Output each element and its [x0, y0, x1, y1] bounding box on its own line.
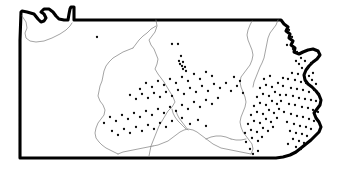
occurrence-dot [181, 65, 183, 67]
occurrence-dot [217, 97, 219, 99]
occurrence-dot [171, 120, 173, 122]
occurrence-dot [236, 85, 238, 87]
occurrence-dot [103, 122, 105, 124]
occurrence-dot [233, 76, 235, 78]
occurrence-dot [287, 78, 289, 80]
occurrence-dot [244, 132, 246, 134]
occurrence-dot [133, 112, 135, 114]
occurrence-dot [182, 61, 184, 63]
occurrence-dot [279, 94, 281, 96]
occurrence-dot [312, 109, 314, 111]
occurrence-dot [127, 118, 129, 120]
occurrence-dot [257, 150, 259, 152]
occurrence-dot [303, 142, 305, 144]
occurrence-dot [197, 119, 199, 121]
occurrence-dot [301, 106, 303, 108]
occurrence-dot [121, 114, 123, 116]
occurrence-dot [169, 106, 171, 108]
occurrence-dot [302, 89, 304, 91]
occurrence-dot [135, 126, 137, 128]
occurrence-dot [205, 99, 207, 101]
occurrence-dot [145, 82, 147, 84]
map-canvas [0, 0, 339, 175]
occurrence-dot [308, 118, 310, 120]
occurrence-dot [182, 68, 184, 70]
occurrence-dot [304, 98, 306, 100]
occurrence-dot [308, 75, 310, 77]
occurrence-dot [165, 126, 167, 128]
occurrence-dot [301, 133, 303, 135]
occurrence-dot [310, 128, 312, 130]
occurrence-dot [259, 122, 261, 124]
occurrence-dot [313, 120, 315, 122]
occurrence-dot [290, 87, 292, 89]
occurrence-dot [205, 125, 207, 127]
occurrence-dot [239, 80, 241, 82]
occurrence-dot [305, 126, 307, 128]
occurrence-dot [252, 153, 254, 155]
occurrence-dot [111, 130, 113, 132]
occurrence-dot [249, 148, 251, 150]
occurrence-dot [315, 83, 317, 85]
occurrence-dot [147, 97, 149, 99]
occurrence-dot [305, 82, 307, 84]
occurrence-dot [302, 116, 304, 118]
occurrence-dot [272, 126, 274, 128]
occurrence-dot [288, 103, 290, 105]
occurrence-dot [181, 117, 183, 119]
occurrence-dot [187, 108, 189, 110]
occurrence-dot [96, 36, 98, 38]
occurrence-dot [179, 63, 181, 65]
occurrence-dot [301, 67, 303, 69]
occurrence-dot [253, 105, 255, 107]
occurrence-dot [295, 146, 297, 148]
occurrence-dot [318, 93, 320, 95]
occurrence-dot [109, 116, 111, 118]
state-outline-layer [20, 7, 321, 158]
occurrence-dot [296, 88, 298, 90]
occurrence-dot [177, 89, 179, 91]
occurrence-dot [268, 109, 270, 111]
occurrence-dot [293, 123, 295, 125]
occurrence-dot [274, 91, 276, 93]
occurrence-dot [291, 72, 293, 74]
occurrence-dot [292, 48, 294, 50]
occurrence-dot [123, 128, 125, 130]
occurrence-dot [290, 113, 292, 115]
occurrence-dot [117, 134, 119, 136]
occurrence-dot [211, 75, 213, 77]
occurrence-dot [265, 118, 267, 120]
occurrence-dot [292, 95, 294, 97]
occurrence-dot [295, 132, 297, 134]
occurrence-dot [178, 60, 180, 62]
occurrence-dot [300, 81, 302, 83]
occurrence-dot [312, 72, 314, 74]
occurrence-dot [230, 90, 232, 92]
occurrence-dot [180, 55, 182, 57]
occurrence-dot [184, 66, 186, 68]
occurrence-dot [256, 96, 258, 98]
occurrence-dot [250, 114, 252, 116]
occurrence-dot [265, 84, 267, 86]
occurrence-dot [185, 70, 187, 72]
occurrence-dot [199, 78, 201, 80]
occurrence-dot [181, 104, 183, 106]
occurrence-dot [257, 140, 259, 142]
occurrence-dot [171, 95, 173, 97]
occurrence-dot [298, 140, 300, 142]
occurrence-dot [303, 73, 305, 75]
occurrence-dot [306, 135, 308, 137]
occurrence-dot [262, 113, 264, 115]
occurrence-dot [268, 95, 270, 97]
occurrence-dot [205, 71, 207, 73]
occurrence-dot [287, 143, 289, 145]
occurrence-dot [135, 98, 137, 100]
occurrence-dot [247, 123, 249, 125]
occurrence-dot [307, 67, 309, 69]
occurrence-dot [151, 86, 153, 88]
occurrence-dot [169, 78, 171, 80]
occurrence-dot [177, 43, 179, 45]
occurrence-dot [273, 112, 275, 114]
occurrence-dot [294, 79, 296, 81]
occurrence-dot [291, 36, 293, 38]
